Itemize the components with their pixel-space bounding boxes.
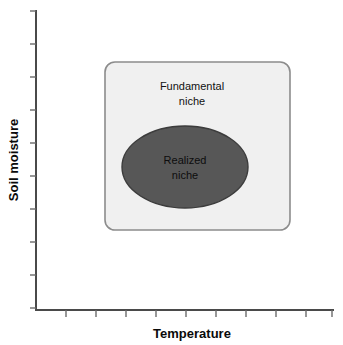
- x-axis-ticks: [66, 310, 332, 317]
- plot-canvas: Fundamental niche Realized niche Tempera…: [0, 0, 343, 345]
- fundamental-niche-label-line1: Fundamental: [160, 80, 224, 92]
- x-axis-title: Temperature: [153, 326, 231, 341]
- y-axis-title: Soil moisture: [6, 119, 21, 201]
- niche-diagram-figure: Fundamental niche Realized niche Tempera…: [0, 0, 343, 345]
- realized-niche-label-line1: Realized: [164, 154, 207, 166]
- realized-niche-label-line2: niche: [172, 169, 198, 181]
- realized-niche-region: [122, 126, 248, 208]
- fundamental-niche-label-line2: niche: [179, 95, 205, 107]
